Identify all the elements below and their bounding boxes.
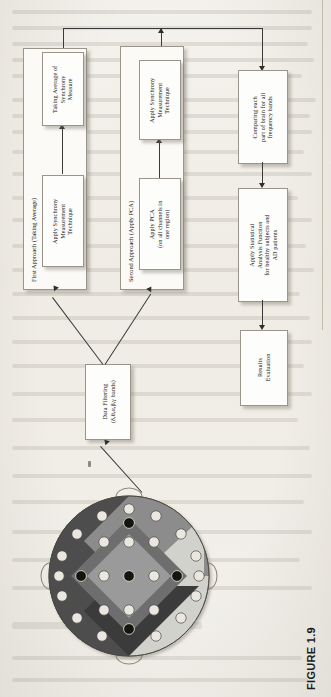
electrode — [99, 605, 109, 615]
electrode — [191, 591, 201, 601]
connector-filter-to-first-approach — [52, 297, 103, 365]
electrode — [72, 613, 82, 623]
step-apply-synchrony-2-label: Apply Synchrony Measurement Technique — [149, 77, 172, 122]
electrode-reference — [76, 571, 87, 582]
electrode-reference — [124, 571, 135, 582]
electrode — [124, 504, 134, 514]
step-apply-synchrony-1-label: Apply Synchrony Measurement Technique — [52, 198, 75, 243]
electrode — [97, 511, 107, 521]
figure-1-9-flowchart: First Approach (Taking Average) Apply Sy… — [0, 0, 331, 697]
electrode — [57, 591, 67, 601]
step-apply-synchrony-1: Apply Synchrony Measurement Technique — [42, 175, 84, 267]
electrode-reference — [124, 518, 135, 529]
electrode — [151, 511, 161, 521]
connector-second-approach-inner — [159, 142, 160, 178]
group-first-approach-label: First Approach (Taking Average) — [30, 198, 37, 282]
electrode-reference — [124, 624, 135, 635]
electrode — [124, 605, 134, 615]
group-second-approach-label: Second Approach (Apply PCA) — [127, 201, 134, 282]
step-statistical: Apply Statistical Analysis Function for … — [238, 188, 288, 302]
step-apply-pca-label: Apply PCA (on all channels in one region… — [149, 200, 172, 247]
arrowhead-second-approach-to-rail — [158, 28, 164, 33]
electrode — [97, 631, 107, 641]
electrode — [149, 537, 159, 547]
step-data-filtering-label: Data Filtering (δ,θ,α,β,γ bands) — [100, 381, 115, 424]
electrode — [194, 571, 204, 581]
electrode — [176, 529, 186, 539]
step-apply-pca: Apply PCA (on all channels in one region… — [139, 178, 181, 270]
step-comparing: Comparing each part of brain for all fre… — [238, 70, 288, 164]
connector-first-approach-inner — [62, 128, 63, 174]
electrode — [124, 537, 134, 547]
step-taking-average: Taking Average of Synchrony Measure — [42, 52, 84, 126]
connector-first-approach-stub — [63, 28, 64, 48]
electrode — [176, 613, 186, 623]
step-results-label: Results Evaluation — [256, 354, 271, 382]
step-comparing-label: Comparing each part of brain for all fre… — [252, 92, 275, 141]
eeg-electrode-head-map — [29, 476, 229, 676]
electrode — [149, 605, 159, 615]
scan-artifact-mark — [88, 461, 91, 467]
step-data-filtering: Data Filtering (δ,θ,α,β,γ bands) — [85, 364, 131, 440]
electrode-reference — [172, 571, 183, 582]
electrode — [99, 537, 109, 547]
figure-caption: FIGURE 1.9 — [305, 627, 317, 690]
electrode — [54, 571, 64, 581]
electrode — [149, 571, 159, 581]
electrode — [151, 631, 161, 641]
electrode — [191, 551, 201, 561]
electrode — [99, 571, 109, 581]
connector-filter-to-second-approach — [105, 294, 152, 365]
step-statistical-label: Apply Statistical Analysis Function for … — [248, 214, 278, 275]
step-taking-average-label: Taking Average of Synchrony Measure — [52, 65, 75, 112]
connector-rail-to-comparing — [262, 28, 263, 68]
step-apply-synchrony-2: Apply Synchrony Measurement Technique — [139, 60, 181, 140]
electrode — [57, 551, 67, 561]
connector-statistical-to-results — [262, 300, 263, 328]
electrode — [72, 529, 82, 539]
step-results: Results Evaluation — [240, 330, 288, 406]
